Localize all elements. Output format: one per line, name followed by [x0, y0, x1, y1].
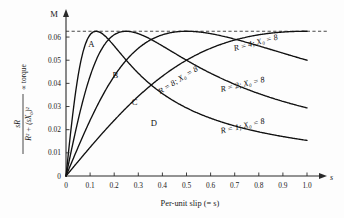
- y-axis-tick-label: 0.04: [48, 79, 61, 88]
- curve-letter-D: D: [151, 118, 157, 128]
- x-axis-tick-label: 1.0: [302, 181, 312, 190]
- curve-letter-A: A: [88, 39, 95, 49]
- x-axis-tick-label: 0.6: [206, 181, 216, 190]
- x-axis-tick-label: 0.4: [158, 181, 168, 190]
- x-axis-tick-label: 0.3: [134, 181, 144, 190]
- torque-slip-chart: 00.10.20.30.40.50.60.70.80.91.0 00.010.0…: [0, 0, 344, 218]
- x-axis-tick-label: 0.1: [85, 181, 95, 190]
- x-axis-caption: Per-unit slip (= s): [161, 199, 220, 208]
- y-axis-tick-label: 0: [57, 172, 61, 181]
- chart-figure: 00.10.20.30.40.50.60.70.80.91.0 00.010.0…: [0, 0, 344, 218]
- curve-letter-B: B: [113, 70, 119, 80]
- x-axis-symbol-label: s: [330, 173, 333, 182]
- y-label-proportionality: ∝ torque: [19, 64, 28, 90]
- x-axis-tick-label: 0: [64, 181, 68, 190]
- x-axis-tick-label: 0.9: [278, 181, 288, 190]
- x-axis-tick-label: 0.8: [254, 181, 264, 190]
- y-axis-tick-label: 0.06: [48, 33, 61, 42]
- y-axis-tick-label: 0.02: [48, 125, 61, 134]
- y-label-numerator: sR: [13, 120, 22, 128]
- x-axis-tick-label: 0.2: [110, 181, 120, 190]
- y-axis-symbol-group: M: [50, 9, 58, 19]
- y-label-denominator: R² + (sX₀)²: [24, 107, 33, 142]
- y-axis-tick-label: 0.01: [48, 148, 61, 157]
- x-axis-symbol-group: s: [330, 173, 333, 182]
- y-axis-tick-label: 0.03: [48, 102, 61, 111]
- y-axis-tick-label: 0.05: [48, 56, 61, 65]
- curve-letter-C: C: [132, 97, 138, 107]
- y-axis-symbol-label: M: [50, 9, 58, 19]
- x-axis-tick-label: 0.7: [230, 181, 240, 190]
- x-axis-caption-group: Per-unit slip (= s): [161, 199, 220, 208]
- x-axis-tick-label: 0.5: [182, 181, 192, 190]
